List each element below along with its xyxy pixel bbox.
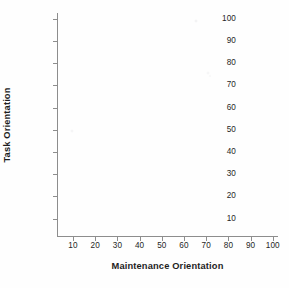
chart-figure: 102030405060708090100 102030405060708090… xyxy=(0,0,289,288)
x-axis-tick-label: 10 xyxy=(68,242,77,250)
x-axis-tick-label: 30 xyxy=(113,242,122,250)
y-axis-title: Task Orientation xyxy=(0,13,14,237)
x-axis-tick-label: 90 xyxy=(246,242,255,250)
x-axis-tick-label: 40 xyxy=(135,242,144,250)
x-axis-tick-label: 50 xyxy=(157,242,166,250)
x-axis-title: Maintenance Orientation xyxy=(57,261,278,271)
x-axis-tick-label: 100 xyxy=(266,242,280,250)
x-axis-tick-label: 20 xyxy=(91,242,100,250)
x-axis-tick-label: 80 xyxy=(224,242,233,250)
x-axis-tick-labels: 102030405060708090100 xyxy=(0,0,289,288)
x-axis-tick-label: 70 xyxy=(202,242,211,250)
x-axis-tick-label: 60 xyxy=(179,242,188,250)
